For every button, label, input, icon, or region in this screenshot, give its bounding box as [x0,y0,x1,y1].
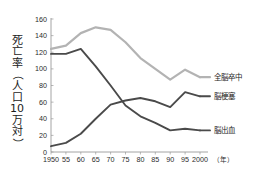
x-axis-tick-label: 90 [166,155,174,164]
chart-plot-svg: 020406080100120140160 195055606570758085… [0,0,263,182]
y-axis-tick-label: 60 [39,98,47,107]
y-axis-tick-label: 140 [35,31,47,40]
x-axis-tick-label: 85 [151,155,159,164]
x-axis-tick-label: 1950 [43,155,59,164]
y-axis-tick-label: 120 [35,48,47,57]
legend-group: 全脳卒中脳梗塞脳出血 [200,72,242,135]
x-axis-tick-label: 80 [136,155,144,164]
x-axis-tick-label: 75 [122,155,130,164]
x-axis-tick-label: 95 [181,155,189,164]
series-line [51,27,200,79]
series-lines-group [51,27,200,146]
x-axis-tick-label: 60 [77,155,85,164]
legend-label: 脳出血 [214,125,236,135]
x-axis-tick-label: 70 [107,155,115,164]
x-axis-unit-label: （年） [213,155,234,164]
y-axis-tick-label: 100 [35,64,47,73]
x-axis-tick-label: 2000 [192,155,208,164]
y-axis-tick-label: 80 [39,81,47,90]
y-axis-tick-label: 40 [39,114,47,123]
x-axis-tick-labels: 19505560657075808590952000 [43,152,208,164]
chart-container: 死 亡 率 （ 人 口 10 万 対 ） 0204060801001201401… [0,0,263,182]
y-axis-tick-label: 20 [39,131,47,140]
x-axis-tick-label: 55 [62,155,70,164]
series-line [51,92,200,146]
y-axis-tick-label: 160 [35,15,47,24]
x-axis-tick-label: 65 [92,155,100,164]
series-line [51,49,200,130]
legend-label: 脳梗塞 [214,91,236,101]
legend-label: 全脳卒中 [214,72,242,82]
